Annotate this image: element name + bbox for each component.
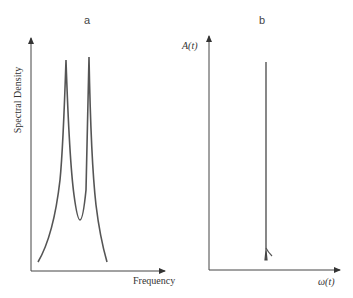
spectral-density-curve bbox=[38, 57, 107, 262]
figure: a b Spectral Density Frequency A(t) ω(t) bbox=[0, 0, 353, 298]
panel-b-axes bbox=[209, 36, 340, 270]
y-axis-label-a: Spectral Density bbox=[12, 67, 23, 133]
instantaneous-frequency-curve bbox=[265, 62, 272, 260]
panel-label-b: b bbox=[259, 14, 265, 26]
x-axis-label-a: Frequency bbox=[133, 275, 175, 286]
y-axis-label-b: A(t) bbox=[182, 40, 198, 51]
panel-a-axes bbox=[31, 38, 165, 271]
x-axis-label-b: ω(t) bbox=[318, 276, 335, 287]
panel-label-a: a bbox=[84, 14, 90, 26]
figure-graphics bbox=[0, 0, 353, 298]
